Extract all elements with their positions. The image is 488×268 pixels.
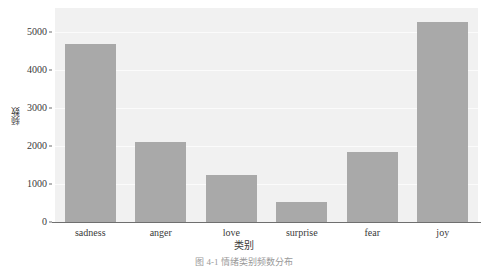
bar-anger bbox=[135, 142, 186, 222]
x-axis-line bbox=[52, 222, 481, 223]
x-tick-label-love: love bbox=[223, 227, 240, 238]
gridline bbox=[55, 70, 478, 71]
y-tick-label: 1000 bbox=[27, 179, 47, 189]
y-tick-mark bbox=[49, 32, 52, 33]
y-tick-mark bbox=[49, 146, 52, 147]
y-tick-mark bbox=[49, 108, 52, 109]
bar-joy bbox=[417, 22, 468, 222]
x-tick-label-surprise: surprise bbox=[286, 227, 318, 238]
bar-sadness bbox=[65, 44, 116, 222]
y-tick-label: 3000 bbox=[27, 103, 47, 113]
gridline bbox=[55, 32, 478, 33]
y-tick-label: 5000 bbox=[27, 27, 47, 37]
gridline bbox=[55, 108, 478, 109]
y-tick-label: 4000 bbox=[27, 65, 47, 75]
x-tick-label-sadness: sadness bbox=[75, 227, 106, 238]
figure-caption: 图 4-1 情绪类别频数分布 bbox=[0, 257, 488, 268]
x-axis-ticks: sadnessangerlovesurprisefearjoy bbox=[55, 224, 478, 240]
x-tick-label-joy: joy bbox=[436, 227, 449, 238]
bar-fear bbox=[347, 152, 398, 222]
bar-surprise bbox=[276, 202, 327, 222]
y-tick-label: 0 bbox=[42, 217, 47, 227]
x-tick-label-anger: anger bbox=[150, 227, 172, 238]
y-axis-ticks: 010002000300040005000 bbox=[16, 14, 52, 230]
y-tick-mark bbox=[49, 70, 52, 71]
bar-love bbox=[206, 175, 257, 222]
plot-area bbox=[55, 8, 478, 222]
x-axis-title: 类别 bbox=[0, 240, 488, 252]
x-tick-label-fear: fear bbox=[364, 227, 380, 238]
y-tick-label: 2000 bbox=[27, 141, 47, 151]
gridline bbox=[55, 146, 478, 147]
y-tick-mark bbox=[49, 184, 52, 185]
gridline bbox=[55, 184, 478, 185]
